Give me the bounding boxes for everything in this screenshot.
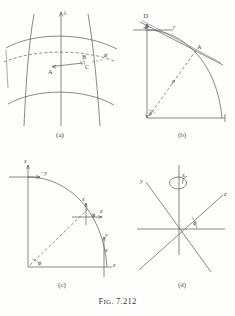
panel-d-diagram: y z x ϕ bbox=[125, 155, 233, 279]
panel-b-label-point-d: D bbox=[144, 12, 149, 19]
panel-c-label-y-right: y bbox=[104, 231, 108, 238]
figure-container: λ ϕ A B C (a) D A r ρ bbox=[0, 0, 235, 316]
panel-c-label-z-axis: z bbox=[112, 261, 116, 268]
panel-c-sublabel: (c) bbox=[42, 281, 82, 289]
panel-d-label-x-axis: x bbox=[181, 171, 185, 178]
panel-a-label-point-b: B bbox=[82, 53, 86, 60]
panel-c-label-phi-origin: ϕ bbox=[38, 259, 42, 266]
panel-a-label-lambda: λ bbox=[63, 9, 67, 16]
panel-b-label-rho: ρ bbox=[171, 77, 175, 84]
panel-b-label-point-a: A bbox=[197, 43, 202, 50]
panel-d-label-z-axis: z bbox=[223, 190, 227, 197]
panel-c-diagram: x −y x z ϕ y x z ϕ bbox=[6, 155, 122, 279]
panel-c-label-z-prime: z bbox=[99, 207, 103, 214]
panel-c-label-x-mid: x bbox=[81, 195, 85, 202]
panel-b-label-phi-bottom: ϕ bbox=[149, 109, 153, 116]
panel-d-label-y-axis: y bbox=[139, 177, 143, 184]
panel-c-label-x-axis: x bbox=[23, 157, 27, 164]
panel-a-label-point-a: A bbox=[48, 68, 53, 75]
panel-a-label-point-c: C bbox=[85, 63, 89, 70]
figure-caption: FIG. 7.212 bbox=[0, 296, 235, 306]
panel-d-sublabel: (d) bbox=[162, 281, 202, 289]
panel-a-diagram: λ ϕ A B C bbox=[4, 4, 120, 128]
panel-c-label-minus-y: −y bbox=[40, 169, 47, 176]
panel-c-label-x-lower: x bbox=[104, 246, 108, 253]
panel-b-sublabel: (b) bbox=[162, 131, 202, 139]
panel-b-label-r: r bbox=[173, 23, 176, 30]
panel-b-diagram: D A r ρ ϕ ϕ bbox=[125, 4, 233, 128]
caption-rest: . 7.212 bbox=[111, 296, 136, 306]
panel-a-label-phi: ϕ bbox=[104, 51, 108, 58]
panel-a-sublabel: (a) bbox=[40, 131, 80, 139]
